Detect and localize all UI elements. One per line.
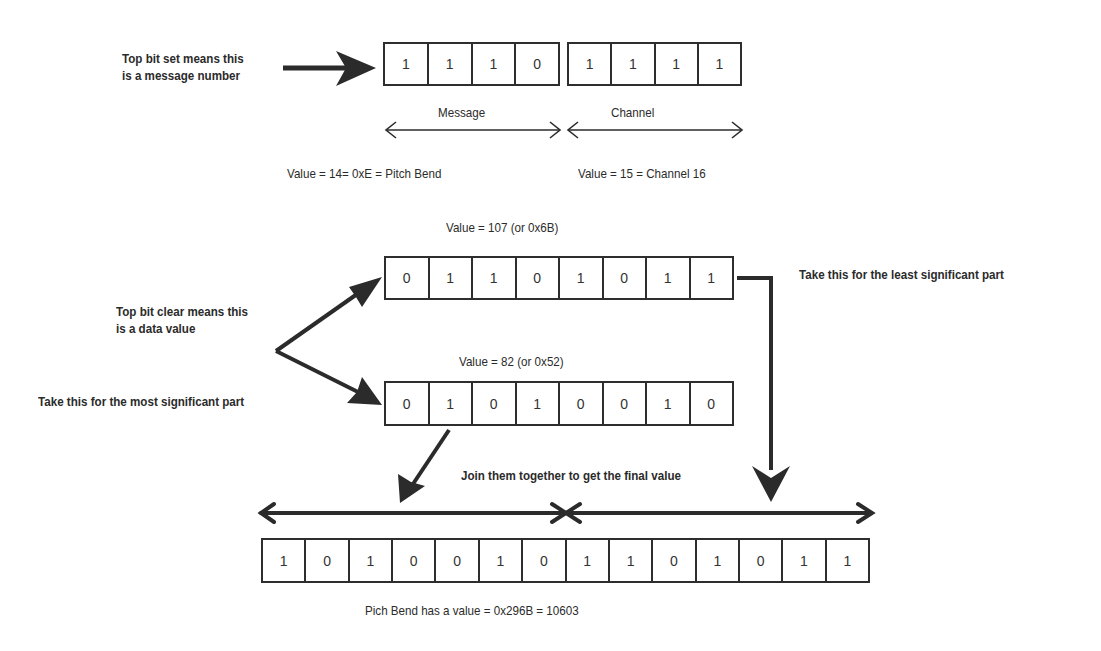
bit-cell: 1 bbox=[783, 540, 826, 581]
bit-cell: 1 bbox=[656, 44, 699, 84]
bit-cell: 0 bbox=[691, 383, 733, 424]
result-msb-range-arrow bbox=[261, 504, 566, 522]
bit-cell: 0 bbox=[436, 540, 479, 581]
bit-cell: 0 bbox=[516, 44, 558, 84]
msb-bits-box: 0 1 0 1 0 0 1 0 bbox=[384, 381, 734, 426]
bit-cell: 0 bbox=[604, 258, 648, 298]
bit-cell: 1 bbox=[697, 540, 740, 581]
status-note-line2: is a message number bbox=[122, 67, 240, 84]
bit-cell: 1 bbox=[699, 44, 740, 84]
bit-cell: 1 bbox=[473, 258, 517, 298]
message-bits-box: 1 1 1 0 bbox=[383, 42, 560, 86]
lsb-value-label: Value = 107 (or 0x6B) bbox=[446, 219, 558, 236]
bit-cell: 1 bbox=[567, 540, 610, 581]
bit-cell: 1 bbox=[429, 44, 473, 84]
bit-cell: 1 bbox=[430, 258, 474, 298]
bit-cell: 0 bbox=[393, 540, 436, 581]
data-fork-arrows bbox=[276, 277, 382, 405]
status-note-line1: Top bit set means this bbox=[122, 50, 244, 67]
bit-cell: 1 bbox=[350, 540, 393, 581]
result-caption: Pich Bend has a value = 0x296B = 10603 bbox=[365, 602, 579, 619]
msb-value-label: Value = 82 (or 0x52) bbox=[459, 353, 564, 370]
bit-cell: 0 bbox=[740, 540, 783, 581]
message-label: Message bbox=[438, 104, 485, 121]
bit-cell: 1 bbox=[430, 383, 474, 424]
msb-connector-arrow bbox=[398, 430, 449, 503]
status-arrow bbox=[283, 51, 376, 86]
lsb-connector-arrow bbox=[737, 278, 790, 502]
result-lsb-range-arrow bbox=[566, 504, 872, 522]
bit-cell: 0 bbox=[306, 540, 349, 581]
bit-cell: 0 bbox=[604, 383, 648, 424]
bit-cell: 1 bbox=[569, 44, 612, 84]
join-label: Join them together to get the final valu… bbox=[461, 467, 681, 484]
bit-cell: 1 bbox=[385, 44, 429, 84]
bit-cell: 0 bbox=[560, 383, 604, 424]
data-note-line1: Top bit clear means this bbox=[116, 303, 248, 320]
bit-cell: 0 bbox=[473, 383, 517, 424]
bit-cell: 0 bbox=[386, 383, 430, 424]
bit-cell: 1 bbox=[473, 44, 517, 84]
bit-cell: 1 bbox=[827, 540, 868, 581]
result-bits-box: 1 0 1 0 0 1 0 1 1 0 1 0 1 1 bbox=[261, 538, 870, 583]
bit-cell: 0 bbox=[653, 540, 696, 581]
bit-cell: 1 bbox=[612, 44, 655, 84]
bit-cell: 1 bbox=[480, 540, 523, 581]
channel-label: Channel bbox=[611, 104, 654, 121]
lsb-bits-box: 0 1 1 0 1 0 1 1 bbox=[384, 256, 734, 300]
bit-cell: 1 bbox=[647, 258, 691, 298]
bit-cell: 1 bbox=[647, 383, 691, 424]
bit-cell: 1 bbox=[691, 258, 733, 298]
message-range-arrow bbox=[386, 122, 560, 138]
bit-cell: 1 bbox=[517, 383, 561, 424]
channel-bits-box: 1 1 1 1 bbox=[567, 42, 742, 86]
bit-cell: 0 bbox=[386, 258, 430, 298]
lsb-caption: Take this for the least significant part bbox=[799, 266, 1004, 283]
channel-value-text: Value = 15 = Channel 16 bbox=[578, 165, 706, 182]
message-value-text: Value = 14= 0xE = Pitch Bend bbox=[287, 165, 441, 182]
bit-cell: 0 bbox=[517, 258, 561, 298]
bit-cell: 1 bbox=[263, 540, 306, 581]
data-note-line2: is a data value bbox=[116, 320, 195, 337]
channel-range-arrow bbox=[568, 122, 742, 138]
bit-cell: 1 bbox=[610, 540, 653, 581]
msb-caption: Take this for the most significant part bbox=[38, 393, 244, 410]
bit-cell: 1 bbox=[560, 258, 604, 298]
bit-cell: 0 bbox=[523, 540, 566, 581]
